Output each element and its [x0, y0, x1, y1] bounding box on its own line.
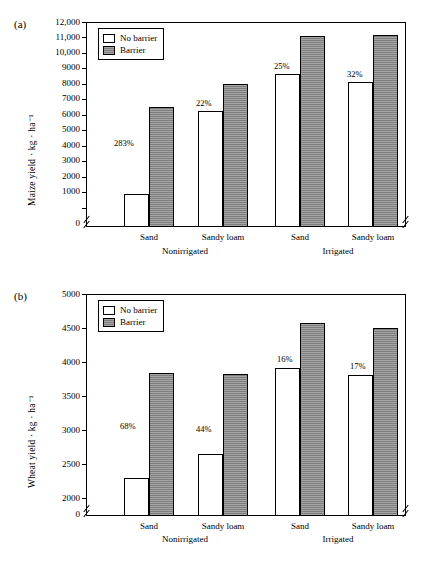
- legend-item-barrier-b: Barrier: [103, 316, 157, 328]
- legend-swatch-no-barrier-b: [103, 306, 115, 315]
- legend-swatch-barrier-b: [103, 318, 115, 327]
- x-label-b-sandyloam-irrigated: Sandy loam: [335, 521, 411, 531]
- bar-no-barrier-nonirrigated-sandyloam-b: [198, 454, 223, 516]
- y-tick-a-3000: 3000: [34, 155, 80, 165]
- pct-label-irrigated-sand-b: 16%: [277, 354, 293, 364]
- panel-a-label: (a): [14, 18, 26, 30]
- x-label-b-sand-nonirrigated: Sand: [111, 521, 187, 531]
- y-tick-a-0: 0: [34, 218, 80, 228]
- bar-barrier-nonirrigated-sand: [149, 107, 174, 227]
- panel-b-label: (b): [14, 290, 27, 302]
- group-label-b-irrigated: Irrigated: [283, 534, 393, 544]
- pct-label-irrigated-sandyloam: 32%: [347, 69, 363, 79]
- y-tick-a-9000: 9000: [34, 62, 80, 72]
- group-label-a-irrigated: Irrigated: [283, 246, 393, 256]
- y-tick-b-2500: 2500: [34, 459, 80, 469]
- axis-break-b-right: [401, 505, 410, 517]
- bar-barrier-irrigated-sand: [300, 36, 325, 227]
- pct-label-irrigated-sandyloam-b: 17%: [350, 361, 366, 371]
- pct-label-nonirrigated-sandyloam-b: 44%: [196, 424, 212, 434]
- y-tick-b-4500: 4500: [34, 323, 80, 333]
- y-tick-a-5000: 5000: [34, 124, 80, 134]
- axis-break-b-left: [82, 505, 91, 517]
- x-label-a-sandyloam-nonirrigated: Sandy loam: [185, 232, 261, 242]
- panel-b-legend: No barrier Barrier: [98, 300, 164, 332]
- panel-a-legend: No barrier Barrier: [98, 28, 164, 60]
- bar-no-barrier-irrigated-sand-b: [275, 368, 300, 516]
- bar-barrier-nonirrigated-sand-b: [149, 373, 174, 516]
- bar-no-barrier-irrigated-sandyloam-b: [348, 375, 373, 516]
- bar-barrier-nonirrigated-sandyloam-b: [223, 374, 248, 516]
- bar-no-barrier-irrigated-sandyloam: [348, 82, 373, 227]
- y-tick-b-2000: 2000: [34, 493, 80, 503]
- pct-label-irrigated-sand: 25%: [274, 61, 290, 71]
- y-tick-a-6000: 6000: [34, 109, 80, 119]
- legend-item-no-barrier: No barrier: [103, 32, 157, 44]
- y-tick-a-11000: 11,000: [34, 32, 80, 42]
- x-label-b-sand-irrigated: Sand: [262, 521, 338, 531]
- legend-swatch-barrier: [103, 46, 115, 55]
- y-tick-a-8000: 8000: [34, 78, 80, 88]
- panel-a: (a) Maize yield · kg · ha⁻¹ 12,000 11,00…: [0, 6, 427, 276]
- bar-barrier-irrigated-sand-b: [300, 323, 325, 516]
- bar-barrier-irrigated-sandyloam-b: [373, 328, 398, 516]
- bar-no-barrier-nonirrigated-sand-b: [124, 478, 149, 516]
- y-tick-b-3000: 3000: [34, 425, 80, 435]
- y-tick-a-10000: 10,000: [34, 47, 80, 57]
- y-tick-a-1000: 1000: [34, 186, 80, 196]
- bar-no-barrier-nonirrigated-sandyloam: [198, 111, 223, 227]
- panel-b-y-axis-label: Wheat yield · kg · ha⁻¹: [26, 395, 37, 488]
- x-label-a-sand-irrigated: Sand: [262, 232, 338, 242]
- bar-no-barrier-nonirrigated-sand: [124, 194, 149, 227]
- group-label-b-nonirrigated: Nonirrigated: [130, 534, 240, 544]
- y-tick-a-4000: 4000: [34, 140, 80, 150]
- x-label-a-sandyloam-irrigated: Sandy loam: [335, 232, 411, 242]
- axis-break-a-left: [82, 216, 91, 228]
- x-label-b-sandyloam-nonirrigated: Sandy loam: [185, 521, 261, 531]
- legend-label-no-barrier: No barrier: [120, 32, 157, 44]
- legend-item-barrier: Barrier: [103, 44, 157, 56]
- legend-swatch-no-barrier: [103, 34, 115, 43]
- y-tick-b-5000: 5000: [34, 289, 80, 299]
- axis-break-a-right: [401, 216, 410, 228]
- legend-label-barrier-b: Barrier: [120, 316, 145, 328]
- y-tick-b-4000: 4000: [34, 357, 80, 367]
- bar-no-barrier-irrigated-sand: [275, 74, 300, 227]
- y-tick-b-0: 0: [34, 509, 80, 519]
- y-tick-a-2000: 2000: [34, 171, 80, 181]
- legend-label-no-barrier-b: No barrier: [120, 304, 157, 316]
- legend-label-barrier: Barrier: [120, 44, 145, 56]
- y-tick-a-7000: 7000: [34, 93, 80, 103]
- y-tick-a-12000: 12,000: [34, 17, 80, 27]
- panel-b: (b) Wheat yield · kg · ha⁻¹ 5000 4500 40…: [0, 276, 427, 567]
- y-tick-b-3500: 3500: [34, 391, 80, 401]
- group-label-a-nonirrigated: Nonirrigated: [130, 246, 240, 256]
- pct-label-nonirrigated-sand: 283%: [114, 138, 134, 148]
- pct-label-nonirrigated-sand-b: 68%: [120, 421, 136, 431]
- pct-label-nonirrigated-sandyloam: 22%: [196, 98, 212, 108]
- legend-item-no-barrier-b: No barrier: [103, 304, 157, 316]
- bar-barrier-nonirrigated-sandyloam: [223, 84, 248, 227]
- bar-barrier-irrigated-sandyloam: [373, 35, 398, 227]
- x-label-a-sand-nonirrigated: Sand: [111, 232, 187, 242]
